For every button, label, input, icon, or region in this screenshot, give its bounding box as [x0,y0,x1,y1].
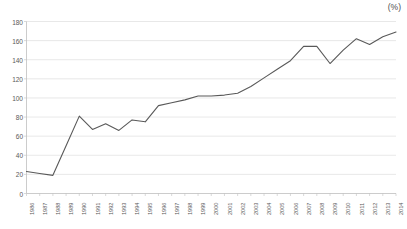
x-axis-tick-label: 1992 [108,202,114,214]
x-axis-tick-label: 2005 [279,202,285,214]
x-axis-tick-label: 2007 [306,202,312,214]
x-axis-labels: 1986198719881989199019911992199319941995… [0,0,407,229]
x-axis-tick-label: 1986 [29,202,35,214]
x-axis-tick-label: 1999 [200,202,206,214]
x-axis-tick-label: 1996 [161,202,167,214]
x-axis-tick-label: 1993 [121,202,127,214]
x-axis-tick-label: 1995 [147,202,153,214]
x-axis-tick-label: 2004 [266,202,272,214]
x-axis-tick-label: 2012 [372,202,378,214]
x-axis-tick-label: 2014 [398,202,404,214]
x-axis-tick-label: 2001 [227,202,233,214]
x-axis-tick-label: 2013 [385,202,391,214]
x-axis-tick-label: 2009 [332,202,338,214]
x-axis-tick-label: 2011 [359,202,365,214]
x-axis-tick-label: 1991 [95,202,101,214]
x-axis-tick-label: 1998 [187,202,193,214]
x-axis-tick-label: 2003 [253,202,259,214]
x-axis-tick-label: 1989 [68,202,74,214]
x-axis-tick-label: 2006 [293,202,299,214]
x-axis-tick-label: 1988 [55,202,61,214]
x-axis-tick-label: 1994 [134,202,140,214]
x-axis-tick-label: 2008 [319,202,325,214]
x-axis-tick-label: 1997 [174,202,180,214]
x-axis-tick-label: 1987 [42,202,48,214]
chart-container: (%) 020406080100120140160180 19861987198… [0,0,407,229]
plot-area: 020406080100120140160180 198619871988198… [0,0,407,229]
x-axis-tick-label: 2000 [213,202,219,214]
x-axis-tick-label: 1990 [81,202,87,214]
x-axis-tick-label: 2002 [240,202,246,214]
x-axis-tick-label: 2010 [345,202,351,214]
